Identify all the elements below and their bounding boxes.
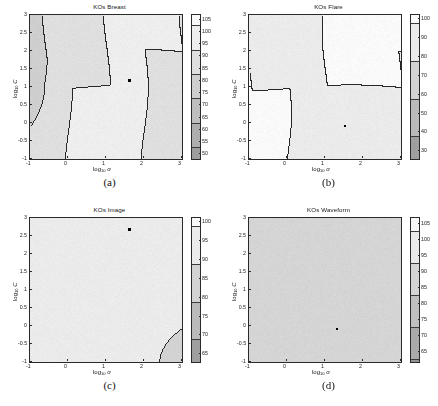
colorbar-tick <box>199 19 201 20</box>
y-tick <box>248 217 251 218</box>
y-tick-label: 2.5 <box>237 232 246 238</box>
panel-b-marker <box>344 125 346 127</box>
colorbar-tick-label: 90 <box>202 256 208 262</box>
colorbar-tick <box>418 131 420 132</box>
colorbar-tick-label: 95 <box>202 40 208 46</box>
colorbar-tick <box>418 255 420 256</box>
colorbar-tick <box>199 278 201 279</box>
colorbar-tick <box>199 92 201 93</box>
y-tick-label: 0 <box>18 322 27 328</box>
colorbar-tick-label: 55 <box>202 138 208 144</box>
x-tick-label: 3 <box>178 363 181 369</box>
y-tick <box>29 253 32 254</box>
colorbar-tick-label: 95 <box>202 237 208 243</box>
x-tick-label: 1 <box>102 160 105 166</box>
y-tick <box>248 86 251 87</box>
y-tick-label: 0.5 <box>18 304 27 310</box>
y-tick-label: -0.5 <box>237 340 246 346</box>
panel-b-caption: (b) <box>219 176 438 188</box>
y-tick <box>248 361 251 362</box>
colorbar-tick <box>418 223 420 224</box>
x-axis-label-text: log <box>93 369 101 375</box>
x-tick <box>105 156 106 159</box>
colorbar-tick-label: 30 <box>421 147 427 153</box>
y-axis-label: log10 C <box>231 79 239 98</box>
x-axis-label-variable: σ <box>107 166 111 172</box>
y-axis-label-subscript: 10 <box>14 85 19 90</box>
y-tick <box>248 50 251 51</box>
y-tick <box>29 217 32 218</box>
colorbar-tick <box>418 94 420 95</box>
x-tick-label: 3 <box>178 160 181 166</box>
y-tick <box>29 325 32 326</box>
y-tick <box>248 32 251 33</box>
x-axis-label: log10 σ <box>93 166 111 174</box>
panel-c-title: KOs Image <box>0 206 219 214</box>
y-tick-label: 3 <box>237 11 246 17</box>
panel-d-marker <box>336 328 338 330</box>
colorbar-tick-label: 85 <box>202 275 208 281</box>
panel-d-plot-area <box>248 217 402 363</box>
colorbar-tick-label: 80 <box>202 294 208 300</box>
y-tick <box>248 307 251 308</box>
x-tick-label: 2 <box>359 363 362 369</box>
x-tick-label: 0 <box>64 160 67 166</box>
colorbar-tick <box>199 55 201 56</box>
x-axis-label-text: log <box>312 166 320 172</box>
colorbar-tick-label: 90 <box>421 34 427 40</box>
panel-a-caption: (a) <box>0 176 219 188</box>
x-axis-label-variable: σ <box>326 369 330 375</box>
panel-d: KOs Waveform (d) 10510095908580757065-10… <box>219 203 438 406</box>
panel-c-caption: (c) <box>0 379 219 391</box>
y-tick <box>248 343 251 344</box>
colorbar-tick <box>418 18 420 19</box>
colorbar-tick-label: 60 <box>202 126 208 132</box>
colorbar-tick-label: 90 <box>421 268 427 274</box>
x-tick <box>362 359 363 362</box>
colorbar-tick <box>199 68 201 69</box>
y-tick <box>248 104 251 105</box>
y-axis-label-text: log <box>231 293 237 301</box>
y-tick <box>248 122 251 123</box>
x-axis-label-text: log <box>312 369 320 375</box>
y-axis-label-variable: C <box>12 282 18 286</box>
colorbar-tick <box>199 316 201 317</box>
colorbar-tick <box>418 56 420 57</box>
y-axis-label: log10 C <box>12 282 20 301</box>
panel-d-title: KOs Waveform <box>219 206 438 214</box>
x-tick <box>181 359 182 362</box>
colorbar-tick <box>418 113 420 114</box>
colorbar-tick-label: 50 <box>202 150 208 156</box>
colorbar-tick <box>199 43 201 44</box>
y-tick-label: -1 <box>237 155 246 161</box>
panel-a: KOs Breast (a) 1051009590858075706560555… <box>0 0 219 203</box>
colorbar-tick <box>418 271 420 272</box>
y-tick-label: 0 <box>237 119 246 125</box>
colorbar-tick-label: 80 <box>202 77 208 83</box>
y-tick-label: 2 <box>18 250 27 256</box>
y-tick <box>248 271 251 272</box>
panel-b-title: KOs Flare <box>219 3 438 11</box>
x-tick-label: 2 <box>140 363 143 369</box>
y-tick <box>248 68 251 69</box>
colorbar-tick-label: 85 <box>421 284 427 290</box>
colorbar-tick <box>199 259 201 260</box>
y-axis-label-variable: C <box>12 79 18 83</box>
panel-a-colorbar <box>191 14 201 160</box>
y-tick-label: 0.5 <box>18 101 27 107</box>
y-tick <box>29 343 32 344</box>
y-axis-label-subscript: 10 <box>233 288 238 293</box>
panel-a-plot-area <box>29 14 183 160</box>
x-tick <box>362 156 363 159</box>
colorbar-tick-label: 85 <box>202 65 208 71</box>
colorbar-tick <box>418 37 420 38</box>
colorbar-tick <box>418 75 420 76</box>
y-tick-label: 1.5 <box>237 268 246 274</box>
y-tick-label: 3 <box>237 214 246 220</box>
colorbar-tick <box>199 240 201 241</box>
panel-c-plot-area <box>29 217 183 363</box>
y-tick <box>29 122 32 123</box>
x-tick <box>286 359 287 362</box>
colorbar-tick-label: 75 <box>202 89 208 95</box>
x-axis-label-subscript: 10 <box>101 168 106 173</box>
